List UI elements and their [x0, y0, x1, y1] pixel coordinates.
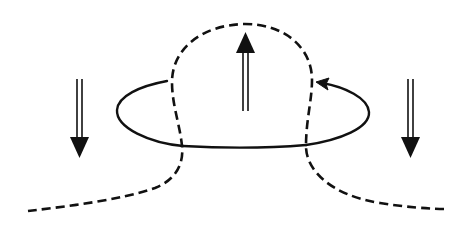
right-down-arrow-icon — [401, 79, 420, 158]
solid-loop-bottom — [183, 145, 306, 147]
solid-loop-right-arc — [306, 83, 369, 145]
center-up-arrow-icon — [236, 32, 255, 111]
diagram-canvas — [0, 0, 466, 233]
left-down-arrow-icon — [70, 79, 89, 158]
flux-loop-diagram — [0, 0, 466, 233]
